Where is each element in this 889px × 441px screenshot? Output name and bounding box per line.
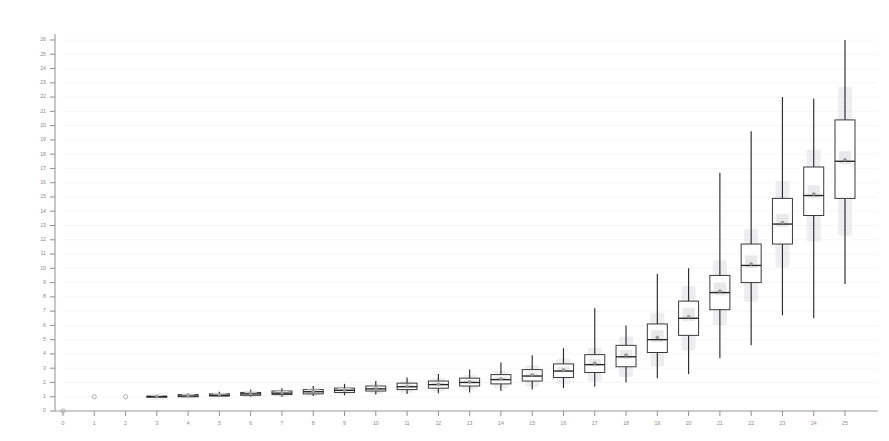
boxplot-group[interactable] (178, 393, 198, 399)
y-axis-tick-label: 24 (40, 65, 46, 71)
x-axis-tick-label: 15 (529, 420, 535, 426)
y-axis-tick-label: 25 (40, 51, 46, 57)
x-axis-tick-label: 14 (498, 420, 504, 426)
x-axis-tick-label: 16 (561, 420, 567, 426)
x-axis-tick-label: 19 (654, 420, 660, 426)
y-axis-tick-label: 15 (40, 193, 46, 199)
mean-marker (844, 158, 847, 161)
mean-marker (187, 394, 190, 397)
y-axis-tick-label: 9 (43, 279, 46, 285)
boxplot-group[interactable] (241, 390, 261, 397)
mean-marker (718, 290, 721, 293)
y-axis-tick-label: 21 (40, 108, 46, 114)
y-axis-tick-label: 14 (40, 208, 46, 214)
y-axis-tick-label: 20 (40, 122, 46, 128)
boxplot-group[interactable] (366, 381, 386, 395)
y-axis-tick-label: 23 (40, 79, 46, 85)
x-axis-tick-label: 0 (62, 420, 65, 426)
boxplot-group[interactable] (491, 362, 511, 391)
mean-marker (781, 221, 784, 224)
median-notch-band (714, 282, 726, 295)
mean-marker (593, 362, 596, 365)
x-axis-tick-label: 18 (623, 420, 629, 426)
x-axis-tick-label: 12 (435, 420, 441, 426)
median-notch-band (682, 308, 694, 321)
x-axis-tick-label: 7 (281, 420, 284, 426)
y-axis-tick-label: 5 (43, 336, 46, 342)
boxplot-group[interactable] (679, 268, 699, 374)
median-notch-band (745, 255, 757, 268)
x-axis-tick-label: 4 (187, 420, 190, 426)
median-notch-band (839, 151, 851, 164)
x-axis-tick-label: 22 (748, 420, 754, 426)
boxplot-group[interactable] (616, 325, 636, 382)
boxplot-group[interactable] (397, 377, 417, 393)
y-axis-tick-label: 4 (43, 350, 46, 356)
x-axis-tick-label: 10 (373, 420, 379, 426)
boxplot-group[interactable] (272, 388, 292, 397)
y-axis-tick-label: 13 (40, 222, 46, 228)
mean-marker (218, 393, 221, 396)
x-axis-tick-label: 5 (218, 420, 221, 426)
boxplot-group[interactable] (647, 274, 667, 378)
mean-marker (562, 369, 565, 372)
y-axis-tick-label: 19 (40, 136, 46, 142)
mean-marker (625, 354, 628, 357)
y-axis-tick-label: 10 (40, 265, 46, 271)
mean-marker (312, 390, 315, 393)
x-axis-tick-label: 25 (842, 420, 848, 426)
boxplot-group[interactable] (522, 355, 542, 389)
y-axis-tick-label: 18 (40, 151, 46, 157)
boxplot-group[interactable] (147, 394, 167, 400)
x-axis-tick-label: 1 (93, 420, 96, 426)
mean-marker (812, 193, 815, 196)
y-axis-tick-label: 16 (40, 179, 46, 185)
mean-marker (499, 377, 502, 380)
boxplot-group[interactable] (335, 384, 355, 395)
boxplot-group[interactable] (710, 173, 730, 359)
x-axis-tick-label: 3 (155, 420, 158, 426)
x-axis-tick-label: 20 (686, 420, 692, 426)
boxplot-group[interactable] (303, 386, 323, 396)
y-axis-tick-label: 1 (43, 393, 46, 399)
y-axis-tick-label: 7 (43, 307, 46, 313)
boxplot-group[interactable] (209, 392, 229, 399)
x-axis-tick-label: 9 (343, 420, 346, 426)
chart-container: 0123456789101112131415161718192021222324… (0, 0, 889, 441)
mean-marker (155, 395, 158, 398)
median-notch-band (808, 185, 820, 198)
mean-marker (437, 383, 440, 386)
boxplot-group[interactable] (428, 374, 448, 393)
x-axis-tick-label: 24 (811, 420, 817, 426)
x-axis-tick-label: 2 (124, 420, 127, 426)
mean-marker (406, 385, 409, 388)
mean-marker (656, 336, 659, 339)
x-axis-tick-label: 17 (592, 420, 598, 426)
boxplot-group[interactable] (585, 308, 605, 386)
boxplot-group[interactable] (460, 370, 480, 393)
mean-marker (249, 392, 252, 395)
x-axis-tick-label: 11 (404, 420, 409, 426)
boxplot-group[interactable] (835, 40, 855, 284)
y-axis-tick-label: 17 (40, 165, 46, 171)
x-axis-tick-label: 6 (249, 420, 252, 426)
y-axis-tick-label: 3 (43, 365, 46, 371)
y-axis-tick-label: 2 (43, 379, 46, 385)
x-axis-tick-label: 23 (780, 420, 786, 426)
boxplot-group[interactable] (741, 131, 761, 345)
y-axis-tick-label: 26 (40, 36, 46, 42)
mean-marker (531, 374, 534, 377)
mean-marker (374, 387, 377, 390)
boxplot-chart: 0123456789101112131415161718192021222324… (0, 0, 889, 441)
mean-marker (280, 391, 283, 394)
x-axis-tick-label: 21 (717, 420, 723, 426)
median-notch-band (776, 214, 788, 227)
x-axis-tick-label: 8 (312, 420, 315, 426)
x-axis-tick-label: 13 (467, 420, 473, 426)
y-axis-tick-label: 12 (40, 236, 46, 242)
boxplot-group[interactable] (804, 99, 824, 319)
mean-marker (343, 389, 346, 392)
y-axis-tick-label: 22 (40, 93, 46, 99)
mean-marker (468, 380, 471, 383)
y-axis-tick-label: 11 (41, 250, 46, 256)
